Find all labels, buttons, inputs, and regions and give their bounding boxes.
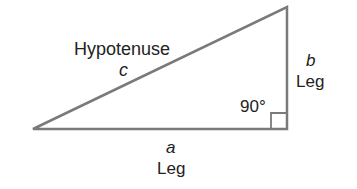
hypotenuse-label: Hypotenuse [74, 40, 170, 58]
vertical-leg-label: Leg [296, 73, 324, 90]
right-angle-label: 90° [240, 98, 266, 115]
hypotenuse-variable: c [119, 61, 128, 79]
horizontal-leg-variable: a [166, 139, 175, 156]
horizontal-leg-label: Leg [157, 160, 185, 177]
right-angle-marker [271, 113, 287, 129]
vertical-leg-variable: b [306, 52, 315, 69]
